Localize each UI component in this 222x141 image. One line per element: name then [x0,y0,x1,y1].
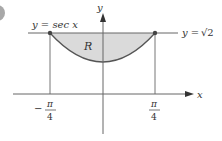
left-tick-numerator: π [46,99,54,109]
right-tick-denominator: 4 [151,112,157,122]
line-label-prefix: y = [181,27,199,38]
curve-label: y = sec x [31,19,78,30]
x-axis-arrow-icon [185,91,194,97]
region-label: R [83,40,92,53]
right-tick-numerator: π [150,99,158,109]
line-label-value: √2 [201,27,214,38]
y-axis-arrow-icon [100,13,106,22]
x-axis-label: x [197,89,203,100]
sec-region-diagram: y x y = sec x y = √2 R − π 4 π 4 [0,0,222,141]
badge-circle [0,5,5,21]
left-tick-denominator: 4 [47,112,53,122]
point-right [153,31,157,35]
left-tick-sign: − [34,103,42,114]
point-left [48,31,52,35]
y-axis-label: y [96,2,103,13]
